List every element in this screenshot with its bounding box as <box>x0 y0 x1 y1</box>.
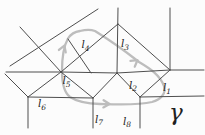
arrangement-line-segment <box>28 72 61 97</box>
line-label-l4: l4 <box>82 38 90 53</box>
labels-group: l4l3l5l2l1l6l7l8γ <box>38 37 183 129</box>
arrangement-line-segment <box>93 73 117 98</box>
gamma-label: γ <box>169 99 183 125</box>
line-label-l2: l2 <box>129 79 137 94</box>
gamma-group <box>59 30 165 108</box>
arrangement-line-segment <box>61 72 117 73</box>
arrangement-line-segment <box>5 74 28 97</box>
arrangement-line-segment <box>140 96 204 97</box>
arrangement-figure-svg: l4l3l5l2l1l6l7l8γ <box>0 0 205 135</box>
gamma-loop <box>62 30 165 105</box>
figure-canvas: l4l3l5l2l1l6l7l8γ <box>0 0 205 135</box>
arrangement-line-segment <box>117 70 170 73</box>
line-label-l6: l6 <box>38 97 46 112</box>
line-label-l7: l7 <box>95 113 103 128</box>
line-label-l8: l8 <box>123 115 131 130</box>
arrangement-line-segment <box>117 8 118 73</box>
arrangement-line-segment <box>20 27 61 72</box>
